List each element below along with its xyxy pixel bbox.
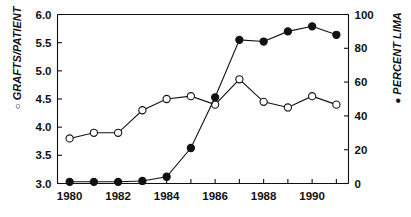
y-axis-left-tick-label: 5.0 [36, 65, 52, 77]
data-point-percent-lima [66, 178, 73, 185]
open-circle-legend-icon: ○ [12, 103, 23, 109]
data-point-grafts-per-patient [260, 98, 267, 105]
data-point-percent-lima [139, 177, 146, 184]
y-axis-right-tick-label: 40 [355, 110, 368, 122]
x-axis-tick-label: 1988 [251, 190, 277, 202]
y-axis-left-tick-label: 5.5 [36, 37, 53, 49]
y-axis-left-tick-label: 3.5 [36, 149, 53, 161]
data-point-grafts-per-patient [139, 107, 146, 114]
x-axis-tick-label: 1986 [202, 190, 228, 202]
y-axis-left-title: ○ GRAFTS/PATIENT [11, 0, 23, 133]
y-axis-right-tick-label: 80 [355, 42, 368, 54]
data-point-percent-lima [260, 38, 267, 45]
data-point-grafts-per-patient [309, 93, 316, 100]
data-point-grafts-per-patient [115, 129, 122, 136]
series-line-grafts-per-patient [70, 79, 337, 138]
data-point-grafts-per-patient [333, 101, 340, 108]
x-axis-tick-label: 1984 [154, 190, 180, 202]
y-axis-left-title-text: GRAFTS/PATIENT [11, 7, 23, 101]
data-point-percent-lima [90, 178, 97, 185]
y-axis-right-tick-label: 20 [355, 144, 368, 156]
x-axis-tick-label: 1982 [105, 190, 131, 202]
data-point-grafts-per-patient [284, 104, 291, 111]
data-point-percent-lima [284, 28, 291, 35]
y-axis-left-tick-label: 6.0 [36, 9, 52, 21]
data-point-percent-lima [187, 144, 194, 151]
chart-figure: ○ GRAFTS/PATIENT ● PERCENT LIMA 3.03.54.… [0, 0, 411, 217]
y-axis-left-tick-label: 4.5 [36, 93, 53, 105]
y-axis-left-tick-label: 4.0 [36, 121, 52, 133]
data-point-percent-lima [163, 173, 170, 180]
data-point-percent-lima [333, 31, 340, 38]
data-point-grafts-per-patient [187, 93, 194, 100]
y-axis-right-tick-label: 0 [355, 178, 361, 190]
y-axis-right-tick-label: 60 [355, 76, 368, 88]
chart-plot-area: 3.03.54.04.55.05.56.00204060801001980198… [0, 0, 411, 217]
data-point-grafts-per-patient [66, 135, 73, 142]
data-point-grafts-per-patient [236, 76, 243, 83]
y-axis-right-title-text: PERCENT LIMA [391, 12, 403, 95]
data-point-percent-lima [115, 178, 122, 185]
y-axis-right-title: ● PERCENT LIMA [391, 0, 403, 133]
x-axis-tick-label: 1990 [299, 190, 325, 202]
data-point-percent-lima [236, 36, 243, 43]
x-axis-tick-label: 1980 [57, 190, 83, 202]
filled-circle-legend-icon: ● [392, 98, 403, 104]
data-point-percent-lima [309, 23, 316, 30]
data-point-grafts-per-patient [163, 95, 170, 102]
y-axis-right-tick-label: 100 [355, 9, 374, 21]
data-point-grafts-per-patient [90, 129, 97, 136]
data-point-percent-lima [212, 94, 219, 101]
y-axis-left-tick-label: 3.0 [36, 178, 52, 190]
